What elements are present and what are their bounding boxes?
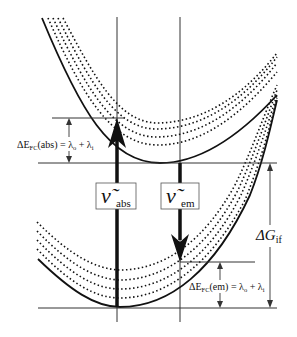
efc-em-label: ΔEFC(em) = λo + λi xyxy=(189,281,265,293)
efc-abs-label: ΔEFC(abs) = λo + λi xyxy=(17,139,94,151)
nu-em-label: ν̃ em xyxy=(161,183,199,209)
svg-text:em: em xyxy=(181,197,195,209)
energy-diagram: ν̃ abs ν̃ em ΔEFC(abs) = λo + λi ΔEFC(em… xyxy=(0,0,297,337)
nu-abs-label: ν̃ abs xyxy=(96,183,136,209)
svg-text:abs: abs xyxy=(116,197,131,209)
emission-arrow xyxy=(171,163,189,262)
